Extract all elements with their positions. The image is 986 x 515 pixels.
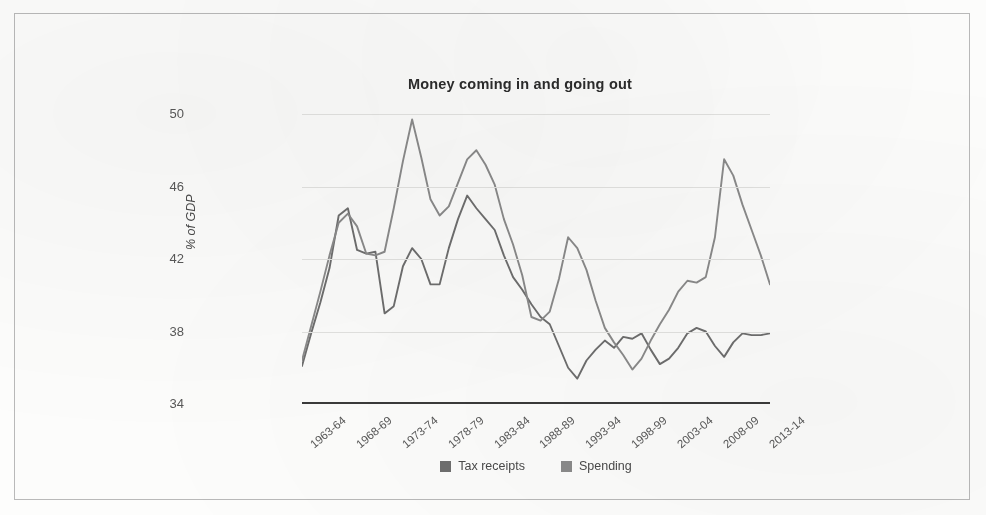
plot-area: 3438424650 1963-641968-691973-741978-791… [302, 114, 770, 404]
x-axis-tick-label: 1968-69 [354, 414, 394, 450]
legend-label: Tax receipts [458, 459, 525, 473]
scanned-page: Money coming in and going out % of GDP 3… [0, 0, 986, 515]
x-axis-tick-label: 1963-64 [308, 414, 348, 450]
y-axis-tick-label: 50 [144, 106, 184, 121]
legend-entry[interactable]: Spending [561, 459, 632, 473]
y-axis-tick-label: 34 [144, 396, 184, 411]
x-axis-tick-label: 2003-04 [675, 414, 715, 450]
y-axis-tick-label: 38 [144, 324, 184, 339]
x-axis-tick-label: 2008-09 [721, 414, 761, 450]
x-axis-tick-label: 1978-79 [446, 414, 486, 450]
legend-swatch-icon [440, 461, 451, 472]
page-border: Money coming in and going out % of GDP 3… [14, 13, 970, 500]
x-axis-tick-label: 2013-14 [767, 414, 807, 450]
gridline [302, 259, 770, 260]
gridline [302, 332, 770, 333]
chart-figure: Money coming in and going out % of GDP 3… [190, 54, 830, 494]
gridline [302, 187, 770, 188]
y-axis-tick-label: 46 [144, 179, 184, 194]
x-axis-tick-label: 1973-74 [400, 414, 440, 450]
chart-legend: Tax receiptsSpending [302, 459, 770, 473]
legend-entry[interactable]: Tax receipts [440, 459, 525, 473]
legend-label: Spending [579, 459, 632, 473]
y-axis-tick-label: 42 [144, 251, 184, 266]
y-axis-title: % of GDP [184, 194, 198, 250]
gridline [302, 114, 770, 115]
legend-swatch-icon [561, 461, 572, 472]
gridline [302, 404, 770, 405]
x-axis-tick-label: 1983-84 [491, 414, 531, 450]
series-line-tax-receipts [302, 196, 770, 379]
x-axis-line [302, 402, 770, 404]
x-axis-tick-label: 1993-94 [583, 414, 623, 450]
chart-title: Money coming in and going out [310, 76, 730, 92]
x-axis-tick-label: 1998-99 [629, 414, 669, 450]
x-axis-tick-label: 1988-89 [537, 414, 577, 450]
